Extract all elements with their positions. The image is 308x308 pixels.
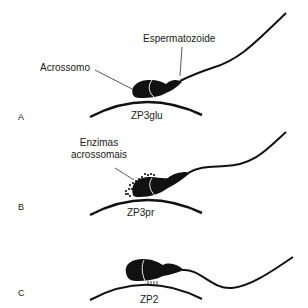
label-zp3glu: ZP3glu	[131, 111, 163, 121]
panel-a	[90, 13, 286, 117]
sperm-binding-diagram	[0, 0, 308, 308]
label-enzimas: Enzimas	[74, 138, 124, 148]
panel-letter-a: A	[18, 112, 24, 122]
label-acrossomais: acrossomais	[64, 150, 134, 160]
enzymes-pointer	[115, 168, 134, 180]
label-acrossomo: Acrossomo	[40, 63, 90, 73]
sperm-tail	[182, 257, 293, 288]
label-espermatozoide: Espermatozoide	[143, 34, 215, 44]
label-zp2: ZP2	[140, 295, 158, 305]
panel-c	[90, 257, 293, 300]
sperm-pointer	[180, 47, 182, 76]
sperm-head	[126, 259, 184, 281]
panel-letter-c: C	[18, 288, 25, 298]
panel-letter-b: B	[18, 202, 24, 212]
sperm-head	[132, 80, 182, 98]
sperm-tail	[188, 132, 286, 173]
sperm-head	[132, 172, 190, 197]
label-zp3pr: ZP3pr	[127, 208, 154, 218]
sperm-tail	[180, 13, 286, 81]
acrosome-pointer	[95, 70, 134, 90]
